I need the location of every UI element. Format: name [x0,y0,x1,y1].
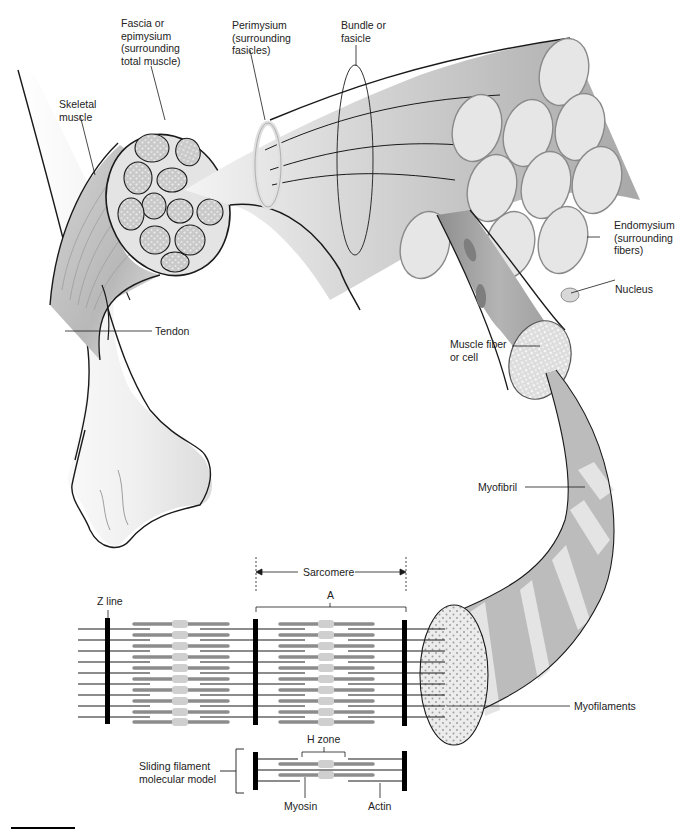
label-z-line: Z line [97,595,123,608]
label-h-zone: H zone [307,733,340,746]
label-myofilaments: Myofilaments [574,700,636,713]
sarcomere-dimension [108,557,406,618]
label-bundle: Bundle or fasicle [341,19,386,44]
label-skeletal-muscle: Skeletal muscle [59,98,96,123]
sliding-filament-model [220,747,407,798]
label-myosin: Myosin [284,800,317,813]
label-tendon: Tendon [155,325,189,338]
sarcomere-diagram [78,557,445,726]
label-sliding-filament-model: Sliding filament molecular model [139,760,216,785]
label-muscle-fiber: Muscle fiber or cell [450,338,507,363]
label-myofibril: Myofibril [478,481,517,494]
label-sarcomere: Sarcomere [303,566,354,579]
myofibril [420,370,614,745]
label-nucleus: Nucleus [615,283,653,296]
actin-filaments [78,629,445,717]
label-a-band: A [327,589,334,602]
label-fascia: Fascia or epimysium (surrounding total m… [121,17,181,67]
label-endomysium: Endomysium (surrounding fibers) [614,219,675,257]
label-actin: Actin [368,800,391,813]
label-perimysium: Perimysium (surrounding fasicles) [232,19,291,57]
muscle-structure-diagram: Fascia or epimysium (surrounding total m… [0,0,688,829]
